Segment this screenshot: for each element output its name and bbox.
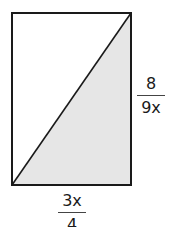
right-label-numerator: 8 [137, 75, 165, 93]
bottom-side-label: 3x 4 [58, 192, 86, 227]
fraction-bar [58, 212, 86, 213]
right-side-label: 8 9x [137, 75, 165, 117]
bottom-label-numerator: 3x [58, 192, 86, 210]
right-label-denominator: 9x [137, 99, 165, 117]
bottom-label-denominator: 4 [58, 216, 86, 227]
fraction-bar [137, 95, 165, 96]
